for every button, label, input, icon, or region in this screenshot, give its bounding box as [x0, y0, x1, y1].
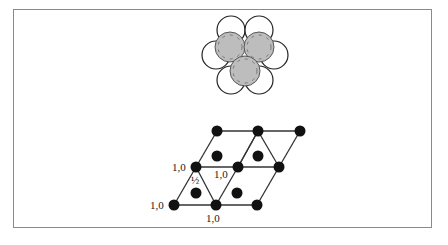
- label-bottom-middle: 1,0: [206, 212, 220, 224]
- gray-sphere: [230, 56, 260, 86]
- lattice-edge: [196, 131, 217, 167]
- lattice-edge: [196, 167, 216, 205]
- interior-dot: [212, 151, 223, 162]
- label-bottom-left: 1,0: [150, 199, 164, 211]
- lattice-node: [169, 200, 180, 211]
- interior-dot: [191, 188, 202, 199]
- label-half: ½: [191, 174, 199, 186]
- lattice-node: [252, 200, 263, 211]
- interior-dot: [253, 151, 264, 162]
- label-middle-left: 1,0: [172, 161, 186, 173]
- lattice-edge: [258, 131, 279, 167]
- lattice-edge: [279, 131, 300, 167]
- lattice-edge: [257, 167, 279, 205]
- sphere-cluster: [202, 16, 288, 94]
- lattice-node: [212, 126, 223, 137]
- lattice-node: [274, 162, 285, 173]
- label-middle-center: 1,0: [214, 168, 228, 180]
- interior-dot: [232, 188, 243, 199]
- lattice-labels: 1,01,01,01,0½: [150, 161, 228, 224]
- lattice-node: [253, 126, 264, 137]
- lattice-node: [233, 162, 244, 173]
- lattice-edge: [238, 131, 258, 167]
- lattice-node: [211, 200, 222, 211]
- lattice-node: [295, 126, 306, 137]
- lattice-node: [191, 162, 202, 173]
- diagram-canvas: 1,01,01,01,0½: [0, 0, 448, 245]
